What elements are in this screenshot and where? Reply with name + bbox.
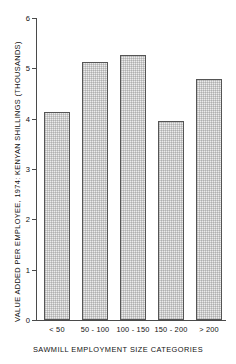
- bars-group: [36, 18, 226, 320]
- y-tick-label: 2: [26, 215, 30, 224]
- y-axis-title: VALUE ADDED PER EMPLOYEE, 1974: KENYAN S…: [14, 41, 21, 322]
- x-axis-title: SAWMILL EMPLOYMENT SIZE CATEGORIES: [0, 345, 236, 354]
- y-tick-label: 4: [26, 114, 30, 123]
- x-axis-tick-labels: < 5050 - 100100 - 150150 - 200> 200: [36, 325, 226, 337]
- y-axis-title-container: VALUE ADDED PER EMPLOYEE, 1974: KENYAN S…: [0, 0, 18, 330]
- y-tick-label: 0: [26, 316, 30, 325]
- y-tick-label: 6: [26, 14, 30, 23]
- x-axis-line: [36, 320, 226, 321]
- y-tick-label: 3: [26, 165, 30, 174]
- x-tick-label-2: 50 - 100: [81, 325, 110, 334]
- bar-3[interactable]: [120, 55, 146, 320]
- x-tick-label-5: > 200: [199, 325, 219, 334]
- bar-5[interactable]: [196, 79, 222, 320]
- plot-area: 0123456: [36, 18, 226, 320]
- y-tick-mark: [32, 320, 37, 321]
- y-tick-label: 1: [26, 265, 30, 274]
- x-tick-label-1: < 50: [49, 325, 64, 334]
- x-tick-label-3: 100 - 150: [116, 325, 149, 334]
- x-tick-label-4: 150 - 200: [154, 325, 187, 334]
- bar-4[interactable]: [158, 121, 184, 320]
- y-tick-label: 5: [26, 64, 30, 73]
- bar-chart-figure: VALUE ADDED PER EMPLOYEE, 1974: KENYAN S…: [0, 0, 236, 364]
- bar-1[interactable]: [44, 112, 70, 320]
- bar-2[interactable]: [82, 62, 108, 320]
